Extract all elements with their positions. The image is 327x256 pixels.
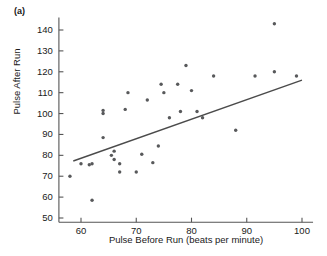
- data-point: [179, 110, 182, 113]
- data-point: [190, 89, 193, 92]
- data-point: [124, 108, 127, 111]
- data-point: [195, 110, 198, 113]
- data-point: [273, 70, 276, 73]
- data-point: [184, 64, 187, 67]
- data-point: [151, 161, 154, 164]
- data-point: [176, 83, 179, 86]
- data-point: [162, 91, 165, 94]
- data-point: [101, 136, 104, 139]
- data-point: [118, 170, 121, 173]
- data-point: [146, 98, 149, 101]
- data-points: [68, 22, 298, 202]
- regression-line: [73, 80, 302, 161]
- data-point: [135, 170, 138, 173]
- data-point: [101, 109, 104, 112]
- data-point: [273, 22, 276, 25]
- data-point: [253, 74, 256, 77]
- data-point: [126, 91, 129, 94]
- data-point: [157, 144, 160, 147]
- data-point: [212, 74, 215, 77]
- data-point: [90, 199, 93, 202]
- data-point: [101, 112, 104, 115]
- data-point: [234, 129, 237, 132]
- plot-canvas: [0, 0, 327, 256]
- data-point: [79, 162, 82, 165]
- regression-line-segment: [73, 80, 302, 161]
- data-point: [110, 154, 113, 157]
- data-point: [140, 153, 143, 156]
- data-point: [118, 162, 121, 165]
- data-point: [112, 158, 115, 161]
- scatter-plot-figure: (a) Pulse After Run Pulse Before Run (be…: [0, 0, 327, 256]
- data-point: [112, 149, 115, 152]
- axes: [59, 17, 313, 222]
- data-point: [201, 116, 204, 119]
- data-point: [159, 83, 162, 86]
- axis-ticks: [59, 30, 302, 222]
- data-point: [90, 162, 93, 165]
- data-point: [295, 74, 298, 77]
- data-point: [168, 116, 171, 119]
- data-point: [68, 175, 71, 178]
